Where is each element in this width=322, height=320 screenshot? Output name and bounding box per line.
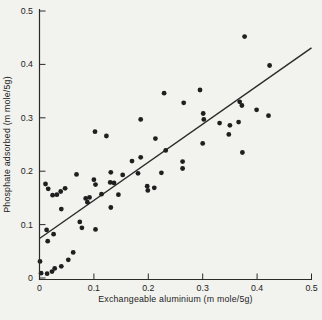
x-tick-label: 0.1 [88, 283, 100, 293]
data-point [50, 193, 55, 198]
data-point [52, 266, 57, 271]
data-point [43, 182, 48, 187]
data-point [45, 271, 50, 276]
data-point [93, 129, 98, 134]
data-point [93, 182, 98, 187]
y-tick-label: 0.4 [21, 59, 33, 69]
data-point [120, 173, 125, 178]
data-point [159, 170, 164, 175]
data-point [92, 177, 97, 182]
x-tick-label: 0.3 [197, 283, 209, 293]
y-axis-title: Phosphate adsorbed (m mole/5g) [2, 76, 12, 213]
data-point [58, 189, 63, 194]
data-point [51, 232, 56, 237]
data-point [112, 181, 117, 186]
data-point [104, 134, 109, 139]
data-point [240, 150, 245, 155]
data-point [201, 117, 206, 122]
data-point [59, 207, 64, 212]
y-tick-label: 0 [28, 273, 33, 283]
data-point [66, 257, 71, 262]
data-point [217, 121, 222, 126]
y-tick-label: 0.5 [21, 6, 33, 16]
data-point [45, 239, 50, 244]
data-point [116, 192, 121, 197]
data-point [108, 170, 113, 175]
data-point [71, 250, 76, 255]
data-point [87, 195, 92, 200]
data-point [138, 155, 143, 160]
data-point [267, 63, 272, 68]
data-point [145, 188, 150, 193]
data-point [201, 111, 206, 116]
data-point [198, 88, 203, 93]
data-point [181, 100, 186, 105]
data-point [80, 225, 85, 230]
data-point [138, 117, 143, 122]
x-tick-label: 0.5 [305, 283, 317, 293]
data-point [136, 171, 141, 176]
data-point [226, 132, 231, 137]
data-point [85, 200, 90, 205]
data-point [55, 192, 60, 197]
data-point [162, 91, 167, 96]
data-point [152, 185, 157, 190]
data-point [93, 227, 98, 232]
x-tick-label: 0.2 [142, 283, 154, 293]
data-point [59, 264, 64, 269]
data-point [228, 123, 233, 128]
figure-page: { "chart_data": { "type": "scatter", "ti… [0, 0, 322, 320]
data-point [163, 148, 168, 153]
x-tick-label: 0.4 [251, 283, 263, 293]
x-axis-title: Exchangeable aluminium (m mole/5g) [98, 294, 252, 304]
data-point [74, 172, 79, 177]
data-point [180, 159, 185, 164]
scatter-figure: 00.10.20.30.40.500.10.20.30.40.5Exchange… [0, 0, 322, 320]
data-point [254, 107, 259, 112]
scatter-chart: 00.10.20.30.40.500.10.20.30.40.5Exchange… [0, 0, 322, 320]
y-tick-label: 0.3 [21, 113, 33, 123]
data-point [145, 184, 150, 189]
data-point [153, 136, 158, 141]
data-point [236, 120, 241, 125]
trend-line [40, 48, 312, 239]
data-point [130, 159, 135, 164]
data-point [180, 166, 185, 171]
data-point [266, 113, 271, 118]
data-point [108, 205, 113, 210]
data-point [99, 192, 104, 197]
data-point [46, 186, 51, 191]
data-point [63, 186, 68, 191]
data-point [44, 228, 49, 233]
y-tick-label: 0.1 [21, 220, 33, 230]
x-tick-label: 0 [37, 283, 42, 293]
data-point [242, 34, 247, 39]
data-point [77, 220, 82, 225]
data-point [240, 103, 245, 108]
data-point [200, 141, 205, 146]
axes-frame [40, 9, 313, 280]
y-tick-label: 0.2 [21, 166, 33, 176]
